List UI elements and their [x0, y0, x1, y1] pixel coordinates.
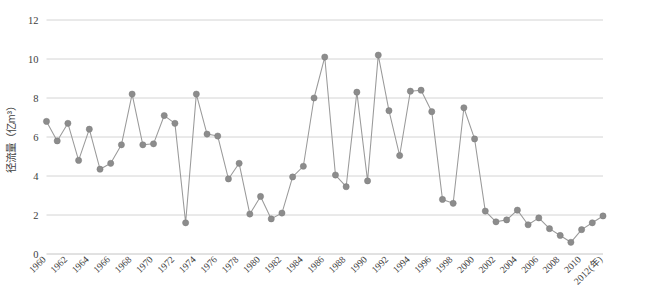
- chart-canvas: 024681012 196019621964196619681970197219…: [0, 0, 647, 289]
- data-point: [386, 108, 392, 114]
- chart-background: [0, 0, 647, 289]
- data-point: [397, 152, 403, 158]
- data-point: [225, 176, 231, 182]
- data-point: [525, 222, 531, 228]
- data-point: [97, 166, 103, 172]
- data-point: [493, 219, 499, 225]
- data-point: [600, 213, 606, 219]
- data-point: [536, 215, 542, 221]
- data-point: [407, 88, 413, 94]
- data-point: [76, 157, 82, 163]
- data-point: [86, 126, 92, 132]
- data-point: [546, 226, 552, 232]
- y-tick-label: 10: [28, 54, 39, 65]
- data-point: [364, 178, 370, 184]
- data-point: [290, 174, 296, 180]
- data-point: [514, 207, 520, 213]
- data-point: [161, 112, 167, 118]
- data-point: [332, 172, 338, 178]
- data-point: [311, 95, 317, 101]
- data-point: [108, 160, 114, 166]
- data-point: [257, 193, 263, 199]
- data-point: [183, 220, 189, 226]
- data-point: [579, 227, 585, 233]
- data-point: [418, 87, 424, 93]
- data-point: [471, 136, 477, 142]
- data-point: [193, 91, 199, 97]
- data-point: [118, 142, 124, 148]
- data-point: [589, 220, 595, 226]
- y-tick-label: 4: [33, 171, 39, 182]
- y-tick-label: 6: [33, 132, 38, 143]
- data-point: [215, 133, 221, 139]
- y-tick-label: 12: [28, 15, 39, 26]
- data-point: [236, 160, 242, 166]
- y-tick-label: 8: [33, 93, 38, 104]
- data-point: [461, 105, 467, 111]
- data-point: [150, 141, 156, 147]
- data-point: [129, 91, 135, 97]
- data-point: [568, 239, 574, 245]
- data-point: [429, 109, 435, 115]
- data-point: [172, 120, 178, 126]
- y-axis-label-text: 径流量（亿m³）: [5, 101, 17, 173]
- data-point: [65, 120, 71, 126]
- data-point: [279, 210, 285, 216]
- data-point: [247, 211, 253, 217]
- data-point: [322, 54, 328, 60]
- data-point: [204, 131, 210, 137]
- y-axis-title: 径流量（亿m³）: [5, 101, 17, 173]
- data-point: [268, 216, 274, 222]
- data-point: [140, 142, 146, 148]
- data-point: [343, 184, 349, 190]
- data-point: [354, 89, 360, 95]
- data-point: [300, 163, 306, 169]
- data-point: [450, 200, 456, 206]
- data-point: [482, 208, 488, 214]
- data-point: [439, 196, 445, 202]
- data-point: [375, 52, 381, 58]
- data-point: [43, 118, 49, 124]
- data-point: [557, 232, 563, 238]
- data-point: [504, 217, 510, 223]
- y-tick-label: 2: [33, 210, 38, 221]
- runoff-line-chart: 024681012 196019621964196619681970197219…: [0, 0, 647, 289]
- data-point: [54, 138, 60, 144]
